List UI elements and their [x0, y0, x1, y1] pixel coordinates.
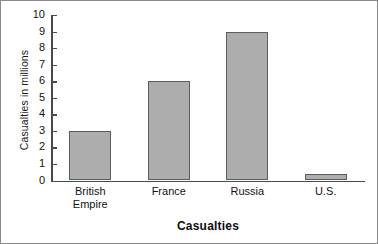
x-axis-category-label: France [130, 185, 209, 198]
chart-figure: Casualties in millions 109876543210 Brit… [0, 0, 378, 244]
y-axis-tick-mark [52, 164, 57, 165]
plot-area: Casualties in millions 109876543210 Brit… [1, 1, 378, 244]
y-axis-tick-label: 2 [23, 141, 45, 152]
x-axis-category-label: BritishEmpire [51, 185, 130, 211]
y-axis-tick-labels: 109876543210 [23, 9, 45, 185]
x-axis-category-label-line: British [51, 185, 130, 198]
x-axis-category-label: Russia [208, 185, 287, 198]
x-axis-category-label: U.S. [287, 185, 366, 198]
bar [148, 81, 190, 180]
y-axis-tick-mark [52, 181, 57, 182]
y-axis-tick-mark [52, 15, 57, 16]
x-axis-category-label-line: Russia [208, 185, 287, 198]
bar [69, 131, 111, 181]
y-axis-tick-mark [52, 98, 57, 99]
y-axis-tick-label: 4 [23, 108, 45, 119]
x-axis-title: Casualties [51, 219, 365, 233]
y-axis-tick-label: 8 [23, 42, 45, 53]
y-axis-tick-label: 7 [23, 59, 45, 70]
bar [226, 32, 268, 181]
y-axis-tick-mark [52, 131, 57, 132]
x-axis-line [51, 181, 365, 183]
y-axis-tick-mark [52, 65, 57, 66]
x-axis-category-label-line: Empire [51, 198, 130, 211]
y-axis-tick-mark [52, 48, 57, 49]
y-axis-tick-label: 1 [23, 158, 45, 169]
y-axis-tick-label: 5 [23, 92, 45, 103]
y-axis-tick-label: 10 [23, 9, 45, 20]
y-axis-tick-label: 6 [23, 75, 45, 86]
bar [305, 174, 347, 181]
y-axis-tick-mark [52, 32, 57, 33]
x-axis-category-label-line: France [130, 185, 209, 198]
x-axis-category-label-line: U.S. [287, 185, 366, 198]
y-axis-tick-mark [52, 114, 57, 115]
y-axis-tick-label: 9 [23, 26, 45, 37]
y-axis-tick-mark [52, 81, 57, 82]
y-axis-tick-label: 0 [23, 175, 45, 186]
y-axis-tick-mark [52, 147, 57, 148]
y-axis-tick-label: 3 [23, 125, 45, 136]
